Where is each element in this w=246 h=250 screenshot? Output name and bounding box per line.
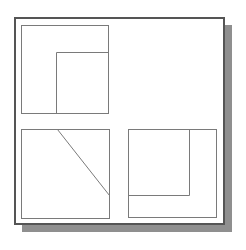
panels-drawing: [0, 0, 246, 250]
panel-box: [22, 26, 109, 114]
panel-box: [22, 130, 110, 219]
panel-line: [58, 130, 110, 196]
panel-box: [129, 130, 217, 218]
bottom-right-panel: [129, 130, 217, 218]
bottom-left-panel: [22, 130, 110, 219]
top-left-panel: [22, 26, 109, 114]
diagram-canvas: [0, 0, 246, 250]
